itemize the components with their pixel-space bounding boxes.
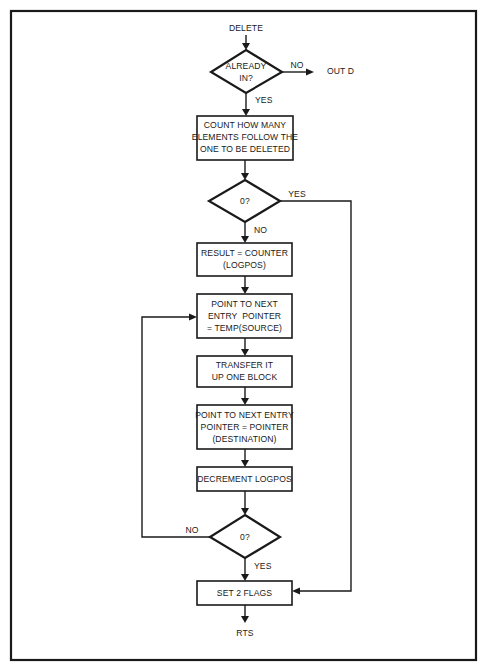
point-source-line2: ENTRY POINTER: [208, 311, 281, 321]
result-box-line2: (LOGPOS): [223, 260, 266, 270]
edge-label-zero1-no: NO: [254, 225, 267, 235]
arrow-head-icon: [189, 314, 197, 321]
arrow-head-icon: [306, 69, 314, 76]
point-dest-line2: POINTER = POINTER: [201, 422, 289, 432]
arrow-head-icon: [241, 460, 249, 467]
decrement-label: DECREMENT LOGPOS: [197, 474, 292, 484]
arrow-head-icon: [241, 349, 249, 356]
set-flags-label: SET 2 FLAGS: [217, 588, 273, 598]
arrow-head-icon: [292, 588, 300, 595]
decision-already-in-line1: ALREADY: [226, 61, 267, 71]
decision-zero-second-label: 0?: [240, 532, 250, 542]
point-source-line1: POINT TO NEXT: [211, 299, 278, 309]
decision-already-in-line2: IN?: [239, 73, 253, 83]
point-dest-line3: (DESTINATION): [212, 434, 276, 444]
end-rts-label: RTS: [236, 628, 254, 638]
count-box-line2: ELEMENTS FOLLOW THE: [192, 132, 298, 142]
edge-label-zero2-no: NO: [185, 525, 198, 535]
out-d-label: OUT D: [327, 66, 354, 76]
edge-label-zero1-yes: YES: [288, 189, 306, 199]
arrow-head-icon: [241, 574, 249, 581]
count-box-line3: ONE TO BE DELETED: [200, 144, 290, 154]
point-dest-line1: POINT TO NEXT ENTRY: [195, 410, 294, 420]
point-source-line3: = TEMP(SOURCE): [207, 323, 282, 333]
edge-label-already-in-no: NO: [290, 60, 303, 70]
transfer-line2: UP ONE BLOCK: [212, 372, 278, 382]
result-box-line1: RESULT = COUNTER: [201, 248, 288, 258]
decision-already-in: [211, 50, 282, 93]
decision-zero-first-label: 0?: [240, 196, 250, 206]
start-label: DELETE: [229, 23, 263, 33]
count-box-line1: COUNT HOW MANY: [204, 120, 287, 130]
arrow-head-icon: [241, 287, 249, 294]
arrow-head-icon: [241, 236, 249, 243]
arrow-head-icon: [241, 616, 249, 623]
arrow-head-icon: [242, 109, 250, 116]
edge-label-zero2-yes: YES: [254, 561, 272, 571]
flowchart-diagram: DELETE ALREADY IN? NO OUT D YES COUNT HO…: [0, 0, 483, 664]
edge-label-already-in-yes: YES: [255, 95, 273, 105]
arrow-head-icon: [241, 398, 249, 405]
transfer-line1: TRANSFER IT: [216, 360, 274, 370]
